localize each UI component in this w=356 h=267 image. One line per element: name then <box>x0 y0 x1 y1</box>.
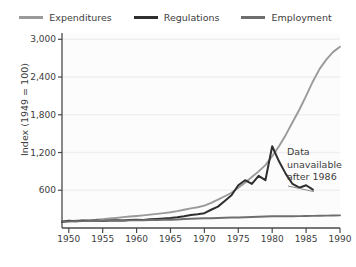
annotation-line-3: after 1986 <box>287 171 349 184</box>
x-axis-ticks: 195019551960196519701975198019851990 <box>0 234 351 248</box>
annotation-line-1: Data <box>287 146 349 159</box>
x-tick-label: 1990 <box>320 234 356 244</box>
annotation-line-2: unavailable <box>287 159 349 172</box>
data-unavailable-note: Data unavailable after 1986 <box>287 146 349 184</box>
